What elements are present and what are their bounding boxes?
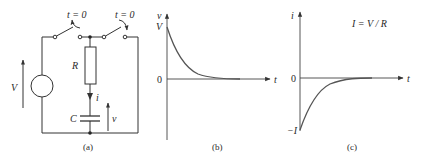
voltage-plot-y-label: v [157, 10, 162, 21]
panel-a-caption: (a) [83, 142, 93, 152]
circuit-panel: V t = 0 t = 0 R i C v (a) [11, 9, 138, 152]
switch-right-terminal-b [123, 35, 127, 39]
current-arrow-icon [87, 93, 93, 100]
switch-right-arrow-icon [119, 20, 127, 30]
current-plot-origin-label: 0 [291, 73, 296, 84]
voltage-plot-v-max-label: V [156, 21, 164, 32]
panel-b-caption: (b) [212, 142, 223, 152]
switch-left-blade [57, 27, 74, 36]
current-plot-i-min-label: −I [287, 125, 298, 136]
current-plot-y-label: i [291, 10, 294, 21]
voltage-decay-curve [167, 27, 240, 79]
current-label: i [96, 92, 99, 103]
switch-left-label: t = 0 [67, 9, 87, 20]
capacitor-label: C [70, 113, 77, 124]
current-plot-panel: i I = V / R 0 −I t (c) [287, 10, 410, 152]
resistor-icon [85, 47, 96, 84]
resistor-label: R [71, 60, 78, 71]
current-plot-x-label: t [407, 73, 410, 84]
wire-left-top [42, 37, 53, 75]
switch-left-arrow-icon [72, 20, 80, 28]
current-plot-equation: I = V / R [351, 18, 387, 29]
switch-right-label: t = 0 [115, 9, 135, 20]
panel-c-caption: (c) [347, 142, 357, 152]
switch-left-terminal-a [53, 35, 57, 39]
capacitor-voltage-label: v [112, 113, 117, 124]
current-decay-curve [300, 78, 372, 130]
rc-discharge-figure: V t = 0 t = 0 R i C v (a) v V [0, 0, 425, 160]
voltage-plot-x-label: t [274, 74, 277, 85]
source-label: V [11, 82, 19, 93]
voltage-plot-panel: v V 0 t (b) [156, 10, 277, 152]
voltage-source-icon [31, 75, 53, 97]
switch-left-terminal-b [78, 35, 82, 39]
switch-right-terminal-a [102, 35, 106, 39]
voltage-plot-origin-label: 0 [157, 74, 162, 85]
switch-right-blade [106, 27, 122, 36]
